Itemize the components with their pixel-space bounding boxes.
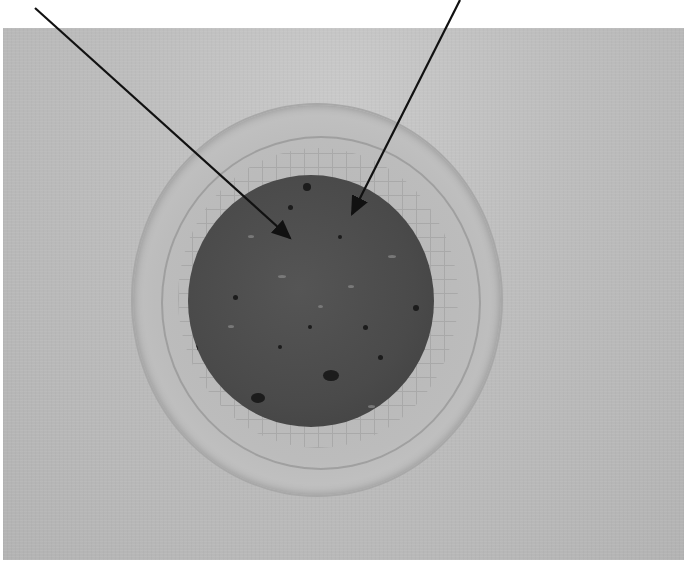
arrow-right-icon — [352, 0, 460, 214]
annotation-arrows — [0, 0, 697, 564]
arrow-left-icon — [35, 8, 290, 238]
